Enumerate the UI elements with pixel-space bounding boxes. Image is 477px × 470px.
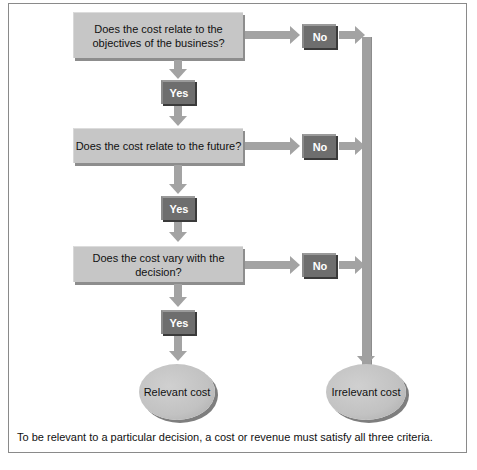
yes-label: Yes — [170, 203, 189, 215]
arrow-down-head — [169, 184, 187, 194]
no-box-1: No — [302, 24, 336, 48]
arrow-right-shaft — [245, 261, 290, 269]
arrow-down-shaft — [174, 222, 182, 232]
question-label: Does the cost vary with the decision? — [74, 251, 243, 279]
arrow-down-shaft — [174, 165, 182, 185]
outcome-label: Relevant cost — [144, 386, 211, 398]
arrow-right-shaft — [245, 142, 290, 150]
question-label: Does the cost relate to the objectives o… — [79, 22, 239, 50]
yes-box-3: Yes — [161, 310, 195, 334]
arrow-right-shaft — [339, 142, 355, 150]
no-path-bar — [362, 37, 372, 409]
no-box-3: No — [302, 253, 336, 277]
yes-box-1: Yes — [161, 80, 195, 104]
yes-label: Yes — [170, 317, 189, 329]
question-box-objectives: Does the cost relate to the objectives o… — [73, 12, 243, 58]
no-label: No — [313, 31, 328, 43]
caption: To be relevant to a particular decision,… — [17, 431, 433, 443]
arrow-right-shaft — [339, 261, 355, 269]
arrow-right-head — [290, 256, 300, 274]
outcome-label: Irrelevant cost — [331, 386, 400, 398]
no-label: No — [313, 260, 328, 272]
question-box-decision: Does the cost vary with the decision? — [73, 246, 243, 282]
question-box-future: Does the cost relate to the future? — [73, 128, 243, 163]
yes-label: Yes — [170, 87, 189, 99]
arrow-down-head — [169, 116, 187, 126]
arrow-down-head — [169, 232, 187, 242]
arrow-down-head — [169, 69, 187, 79]
arrow-down-shaft — [174, 336, 182, 352]
arrow-down-head — [169, 351, 187, 361]
arrow-down-shaft — [174, 284, 182, 298]
arrow-down-shaft — [174, 106, 182, 116]
no-label: No — [313, 141, 328, 153]
arrow-right-shaft — [339, 31, 355, 39]
arrow-right-head — [290, 137, 300, 155]
no-box-2: No — [302, 134, 336, 158]
arrow-right-head — [290, 26, 300, 44]
yes-box-2: Yes — [161, 196, 195, 220]
arrow-down-head — [169, 297, 187, 307]
question-label: Does the cost relate to the future? — [76, 139, 242, 153]
outcome-relevant-cost: Relevant cost — [139, 364, 215, 420]
outcome-irrelevant-cost: Irrelevant cost — [326, 364, 406, 420]
arrow-right-shaft — [245, 31, 290, 39]
